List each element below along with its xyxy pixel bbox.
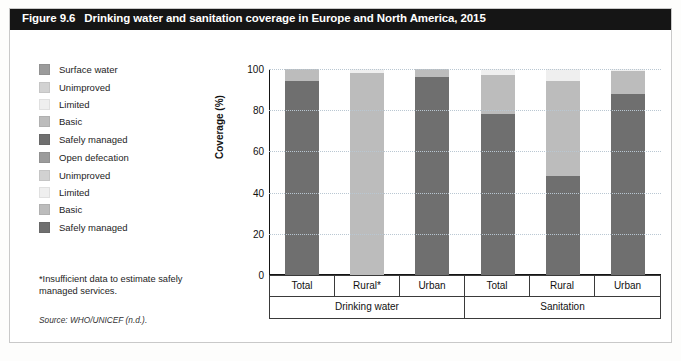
legend-swatch-icon	[39, 170, 50, 181]
bar-segment[interactable]	[285, 69, 319, 81]
axes	[269, 69, 661, 275]
y-axis-tick-label: 80	[253, 105, 264, 116]
bar-stack[interactable]	[350, 69, 384, 275]
gridline	[269, 110, 661, 111]
source-note: Source: WHO/UNICEF (n.d.).	[39, 315, 147, 325]
y-axis-tick-label: 20	[253, 228, 264, 239]
legend-swatch-icon	[39, 204, 50, 215]
x-axis-category-cell: Rural	[530, 276, 595, 296]
legend-item-label: Open defecation	[59, 152, 129, 163]
legend-item-label: Limited	[59, 99, 90, 110]
bar-stack[interactable]	[611, 69, 645, 275]
gridline	[269, 69, 661, 70]
y-axis-tick-label: 100	[247, 64, 264, 75]
legend-drinking-water: Surface waterUnimprovedLimitedBasicSafel…	[39, 61, 224, 148]
legend-item[interactable]: Open defecation	[39, 149, 224, 166]
x-axis-category-cell: Total	[465, 276, 530, 296]
y-axis-label: Coverage (%)	[214, 95, 225, 159]
bar-segment[interactable]	[415, 69, 449, 77]
legend-item-label: Unimproved	[59, 82, 110, 93]
legend-swatch-icon	[39, 116, 50, 127]
legend-item[interactable]: Safely managed	[39, 219, 224, 236]
legend-swatch-icon	[39, 64, 50, 75]
figure-title-bar: Figure 9.6Drinking water and sanitation …	[10, 9, 671, 30]
legend-swatch-icon	[39, 134, 50, 145]
page-title: Figure 9.6Drinking water and sanitation …	[22, 12, 486, 24]
legend-swatch-icon	[39, 99, 50, 110]
y-axis-tick-label: 40	[253, 187, 264, 198]
figure-title-text: Drinking water and sanitation coverage i…	[84, 12, 485, 24]
x-axis-category-cell: Urban	[400, 276, 465, 296]
legend-item-label: Surface water	[59, 64, 118, 75]
legend-item-label: Safely managed	[59, 222, 128, 233]
legend-swatch-icon	[39, 187, 50, 198]
x-axis-category-cell: Urban	[595, 276, 660, 296]
x-axis-group-cell: Sanitation	[465, 297, 660, 318]
bar-segment[interactable]	[415, 77, 449, 275]
bar-segment[interactable]	[611, 94, 645, 275]
legend-item[interactable]: Unimproved	[39, 78, 224, 95]
bar-stack[interactable]	[546, 69, 580, 275]
legend-item[interactable]: Limited	[39, 184, 224, 201]
legend-item-label: Basic	[59, 116, 82, 127]
bar-segment[interactable]	[350, 73, 384, 275]
x-axis-group-row: Drinking waterSanitation	[269, 297, 661, 319]
legend-swatch-icon	[39, 152, 50, 163]
figure-number: Figure 9.6	[22, 12, 75, 24]
legend-item[interactable]: Surface water	[39, 61, 224, 78]
x-axis-category-cell: Rural*	[335, 276, 400, 296]
legend-item-label: Unimproved	[59, 170, 110, 181]
legend-swatch-icon	[39, 82, 50, 93]
y-axis-tick-label: 60	[253, 146, 264, 157]
x-axis-category-cell: Total	[270, 276, 335, 296]
x-axis-label-table: TotalRural*UrbanTotalRuralUrban Drinking…	[269, 275, 661, 319]
bar-segment[interactable]	[481, 114, 515, 275]
figure-container: Figure 9.6Drinking water and sanitation …	[9, 8, 672, 343]
x-axis-group-cell: Drinking water	[270, 297, 465, 318]
y-axis-tick-label: 0	[258, 270, 264, 281]
gridline	[269, 193, 661, 194]
bar-series-container	[269, 69, 661, 275]
legend-item-label: Limited	[59, 187, 90, 198]
legend-sanitation: Open defecationUnimprovedLimitedBasicSaf…	[39, 149, 224, 236]
bar-segment[interactable]	[546, 176, 580, 275]
gridline	[269, 234, 661, 235]
legend-item[interactable]: Limited	[39, 96, 224, 113]
legend-item-label: Safely managed	[59, 134, 128, 145]
bar-stack[interactable]	[481, 69, 515, 275]
legend-item[interactable]: Basic	[39, 201, 224, 218]
bar-stack[interactable]	[415, 69, 449, 275]
bar-segment[interactable]	[611, 71, 645, 94]
legend-item-label: Basic	[59, 204, 82, 215]
footnote: *Insufficient data to estimate safely ma…	[39, 273, 219, 298]
legend-swatch-icon	[39, 222, 50, 233]
bar-segment[interactable]	[546, 69, 580, 81]
legend-item[interactable]: Safely managed	[39, 131, 224, 148]
bar-segment[interactable]	[481, 75, 515, 114]
legend-item[interactable]: Basic	[39, 113, 224, 130]
gridline	[269, 151, 661, 152]
y-axis-ticks: 020406080100	[236, 55, 264, 275]
bar-segment[interactable]	[546, 81, 580, 176]
bar-stack[interactable]	[285, 69, 319, 275]
x-axis-category-row: TotalRural*UrbanTotalRuralUrban	[269, 275, 661, 297]
plot-area: Coverage (%) 020406080100 TotalRural*Urb…	[210, 55, 662, 340]
legend-item[interactable]: Unimproved	[39, 166, 224, 183]
